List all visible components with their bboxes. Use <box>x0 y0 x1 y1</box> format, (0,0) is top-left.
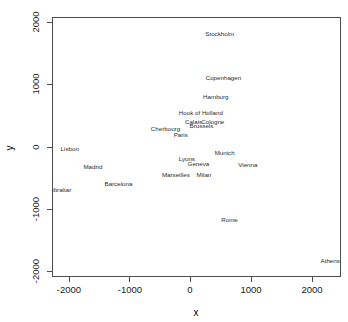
point-label-copenhagen: Copenhagen <box>206 74 242 81</box>
point-label-vienna: Vienna <box>238 161 258 168</box>
scatter-plot-figure: -2000 -1000 0 1000 2000 2000 1000 0 -100… <box>0 0 348 322</box>
x-tick-label-1: -1000 <box>118 284 142 295</box>
y-tick-label-4: -2000 <box>30 259 41 283</box>
point-label-hook-of-holland: Hook of Holland <box>179 109 224 116</box>
x-tick-label-4: 2000 <box>301 284 322 295</box>
point-label-stockholm: Stockholm <box>205 30 234 37</box>
point-label-barcelona: Barcelona <box>105 180 133 187</box>
point-label-lyons: Lyons <box>179 155 195 162</box>
point-label-munich: Munich <box>215 149 236 156</box>
point-label-cologne: Cologne <box>201 118 225 125</box>
x-tick-label-2: 0 <box>187 284 192 295</box>
y-tick-label-3: -1000 <box>30 197 41 221</box>
point-label-athens: Athens <box>321 257 340 264</box>
point-label-gibraltar: Gibraltar <box>47 186 71 193</box>
point-label-madrid: Madrid <box>83 163 102 170</box>
data-point-labels: AthensBarcelonaBrusselsCalaisCherbourgCo… <box>47 30 339 264</box>
point-label-calais: Calais <box>185 118 202 125</box>
y-axis-tick-labels: 2000 1000 0 -1000 -2000 <box>30 11 41 283</box>
plot-canvas: -2000 -1000 0 1000 2000 2000 1000 0 -100… <box>0 0 348 322</box>
y-tick-label-1: 1000 <box>30 73 41 94</box>
x-axis-title: x <box>194 307 199 318</box>
plot-frame <box>53 18 341 277</box>
y-tick-label-0: 2000 <box>30 11 41 32</box>
y-tick-label-2: 0 <box>30 144 41 149</box>
x-tick-label-0: -2000 <box>57 284 81 295</box>
y-axis-title: y <box>4 146 15 151</box>
x-axis-tick-labels: -2000 -1000 0 1000 2000 <box>57 284 323 295</box>
point-label-marseilles: Marseilles <box>162 171 190 178</box>
point-label-paris: Paris <box>174 131 188 138</box>
point-label-hamburg: Hamburg <box>203 93 229 100</box>
y-axis-ticks <box>47 23 52 272</box>
x-axis-ticks <box>70 277 313 282</box>
point-label-milan: Milan <box>197 171 212 178</box>
point-label-rome: Rome <box>221 216 238 223</box>
point-label-lisbon: Lisbon <box>61 145 80 152</box>
x-tick-label-3: 1000 <box>240 284 261 295</box>
